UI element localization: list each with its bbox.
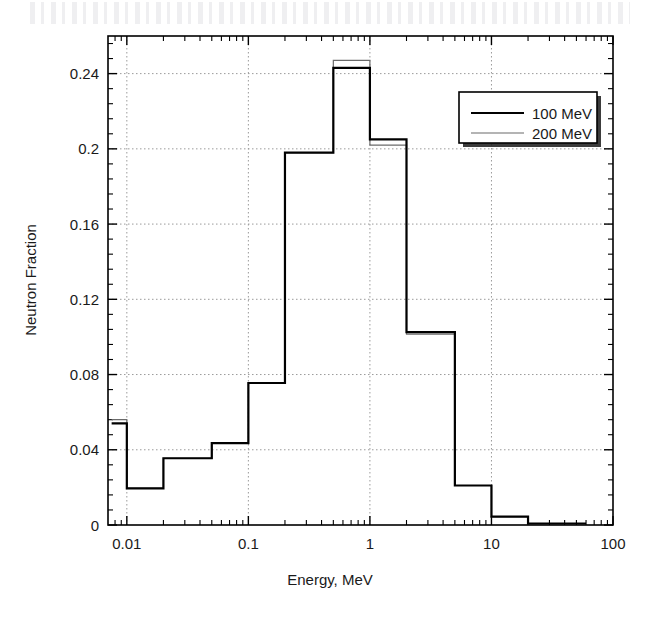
legend-entry-label: 100 MeV [532, 105, 592, 122]
y-tick-label: 0.16 [70, 216, 99, 233]
y-tick-label: 0.12 [70, 291, 99, 308]
y-axis-title: Neutron Fraction [22, 224, 39, 336]
figure-canvas: 00.040.080.120.160.20.24 0.010.1110100 E… [0, 0, 660, 621]
x-tick-label: 0.1 [238, 535, 259, 552]
neutron-fraction-chart: 00.040.080.120.160.20.24 0.010.1110100 E… [0, 0, 660, 621]
y-tick-label: 0 [91, 517, 99, 534]
y-tick-label: 0.08 [70, 366, 99, 383]
x-tick-label: 1 [366, 535, 374, 552]
x-tick-label: 10 [483, 535, 500, 552]
legend: 100 MeV200 MeV [459, 92, 601, 147]
x-axis-title: Energy, MeV [287, 571, 373, 588]
x-tick-labels: 0.010.1110100 [112, 535, 625, 552]
y-tick-label: 0.04 [70, 441, 99, 458]
y-tick-labels: 00.040.080.120.160.20.24 [70, 65, 99, 533]
y-tick-label: 0.24 [70, 65, 99, 82]
x-tick-label: 100 [600, 535, 625, 552]
legend-entry-label: 200 MeV [532, 125, 592, 142]
y-tick-label: 0.2 [78, 140, 99, 157]
x-tick-label: 0.01 [112, 535, 141, 552]
